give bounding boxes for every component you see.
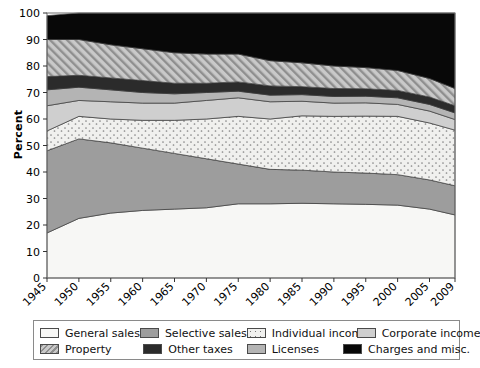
legend-label: General sales	[65, 327, 140, 340]
legend-item-other-taxes[interactable]: Other taxes	[143, 343, 246, 356]
general-sales-swatch	[40, 328, 59, 338]
y-axis-tick-label: 90	[26, 34, 40, 47]
x-axis-tick-label: 1980	[243, 280, 272, 309]
chart-svg: 0102030405060708090100194519501955196019…	[0, 0, 467, 312]
licenses-swatch	[247, 344, 266, 354]
y-axis-tick-label: 80	[26, 60, 40, 73]
x-axis-tick-label: 1955	[84, 280, 113, 309]
legend-item-individual-income[interactable]: Individual income	[247, 327, 357, 340]
corporate-income-swatch	[357, 328, 376, 338]
legend-label: Corporate income	[382, 327, 480, 340]
legend-label: Other taxes	[168, 343, 232, 356]
y-axis-tick-label: 40	[26, 166, 40, 179]
chart-bands	[47, 13, 455, 278]
property-swatch	[40, 344, 59, 354]
individual-income-swatch	[247, 328, 266, 338]
y-axis-tick-label: 70	[26, 87, 40, 100]
y-axis-tick-label: 100	[19, 7, 40, 20]
stacked-area-chart: 0102030405060708090100194519501955196019…	[0, 0, 467, 312]
y-axis-tick-label: 60	[26, 113, 40, 126]
legend-item-charges-and-misc[interactable]: Charges and misc.	[343, 343, 453, 356]
y-axis-title: Percent	[12, 95, 25, 175]
legend-label: Individual income	[272, 327, 369, 340]
x-axis-tick-label: 1950	[52, 280, 81, 309]
legend-item-licenses[interactable]: Licenses	[247, 343, 343, 356]
chart-legend: General sales Selective sales Individual…	[33, 320, 460, 360]
x-axis-tick-label: 1985	[275, 280, 304, 309]
legend-item-corporate-income[interactable]: Corporate income	[357, 327, 467, 340]
legend-row-bottom: Property Other taxes Licenses Charges an…	[40, 341, 453, 357]
x-axis-tick-label: 1965	[148, 280, 177, 309]
x-axis-tick-label: 1945	[20, 280, 49, 309]
legend-label: Charges and misc.	[368, 343, 470, 356]
x-axis-tick-label: 2009	[428, 280, 457, 309]
y-axis-tick-label: 20	[26, 219, 40, 232]
x-axis-tick-label: 1970	[180, 280, 209, 309]
y-axis-tick-label: 50	[26, 140, 40, 153]
x-axis-tick-label: 2005	[403, 280, 432, 309]
selective-sales-swatch	[140, 328, 159, 338]
area-band-general-sales	[47, 203, 455, 278]
x-axis-tick-label: 1975	[211, 280, 240, 309]
x-axis-tick-label: 1960	[116, 280, 145, 309]
legend-label: Licenses	[272, 343, 319, 356]
legend-item-general-sales[interactable]: General sales	[40, 327, 140, 340]
y-axis-tick-label: 30	[26, 193, 40, 206]
x-axis-tick-label: 1995	[339, 280, 368, 309]
legend-item-selective-sales[interactable]: Selective sales	[140, 327, 247, 340]
x-axis-tick-label: 2000	[371, 280, 400, 309]
y-axis-tick-label: 10	[26, 246, 40, 259]
legend-row-top: General sales Selective sales Individual…	[40, 325, 453, 341]
other-taxes-swatch	[143, 344, 162, 354]
legend-label: Property	[65, 343, 112, 356]
legend-label: Selective sales	[165, 327, 247, 340]
x-axis-tick-label: 1990	[307, 280, 336, 309]
legend-item-property[interactable]: Property	[40, 343, 143, 356]
charges-and-misc-swatch	[343, 344, 362, 354]
